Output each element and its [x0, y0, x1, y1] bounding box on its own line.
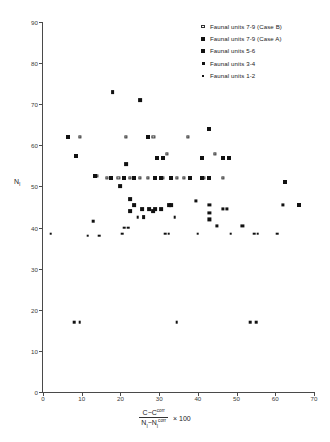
legend-item-4[interactable]: Faunal units 1-2 — [196, 70, 324, 82]
data-point — [169, 203, 173, 207]
y-axis-tick — [39, 351, 43, 352]
data-point — [297, 203, 301, 207]
data-point — [207, 127, 211, 131]
data-point — [249, 321, 252, 324]
x-axis-tick-label: 60 — [272, 395, 279, 402]
y-axis-tick-label: 30 — [31, 265, 38, 272]
data-point — [125, 136, 128, 139]
data-point — [175, 177, 178, 180]
data-point — [78, 136, 81, 139]
data-point — [121, 232, 124, 235]
x-axis-tick-label: 30 — [156, 395, 163, 402]
x-axis-tick-label: 0 — [41, 395, 44, 402]
x-axis-formula-fraction: C−Ccorr NI−NIcorr — [139, 408, 168, 429]
data-point — [197, 232, 200, 235]
legend-marker-icon — [201, 25, 204, 28]
data-point — [142, 215, 146, 219]
data-point — [208, 203, 211, 206]
y-axis-tick-label: 10 — [31, 347, 38, 354]
data-point — [153, 176, 157, 180]
legend-marker-box — [196, 75, 210, 77]
y-axis-tick-label: 90 — [31, 19, 38, 26]
data-point — [173, 216, 176, 219]
legend-item-0[interactable]: Faunal units 7-9 (Case B) — [196, 20, 324, 32]
data-point — [164, 232, 167, 235]
legend-item-label: Faunal units 7-9 (Case B) — [210, 23, 282, 30]
data-point — [73, 321, 76, 324]
legend-item-label: Faunal units 3-4 — [210, 60, 255, 67]
formula-den-sup: corr — [158, 418, 166, 423]
data-point — [229, 232, 232, 235]
data-point — [152, 136, 155, 139]
data-point — [86, 234, 89, 237]
data-point — [221, 156, 225, 160]
y-axis-title: NI — [14, 178, 20, 187]
legend-marker-icon — [201, 37, 205, 41]
data-point — [255, 321, 258, 324]
data-point — [221, 207, 224, 210]
data-point — [151, 209, 155, 213]
data-point — [194, 199, 197, 202]
data-point — [216, 224, 219, 227]
data-point — [137, 216, 140, 219]
data-point — [214, 152, 217, 155]
data-point — [78, 321, 81, 324]
data-point — [208, 212, 211, 215]
y-axis-tick — [39, 22, 43, 23]
data-point — [257, 232, 260, 235]
data-point — [128, 209, 132, 213]
data-point — [66, 135, 70, 139]
data-point — [123, 226, 126, 229]
legend-marker-icon — [201, 49, 205, 53]
legend-marker-box — [196, 25, 210, 28]
data-point — [183, 177, 186, 180]
y-axis-tick — [39, 228, 43, 229]
data-point — [128, 197, 132, 201]
data-point — [93, 174, 97, 178]
data-point — [92, 220, 95, 223]
data-point — [122, 176, 126, 180]
data-point — [124, 162, 128, 166]
scatter-chart-figure: NI 0102030405060708090010203040506070 C−… — [0, 0, 330, 442]
data-point — [208, 218, 211, 221]
y-axis-tick-label: 70 — [31, 101, 38, 108]
data-point — [49, 232, 52, 235]
formula-num-sup: corr — [157, 408, 165, 413]
x-axis-title: C−Ccorr NI−NIcorr × 100 — [0, 408, 330, 429]
data-point — [188, 176, 192, 180]
data-point — [98, 234, 101, 237]
x-axis-tick-label: 20 — [117, 395, 124, 402]
legend-item-2[interactable]: Faunal units 5-6 — [196, 45, 324, 57]
data-point — [159, 176, 163, 180]
x-axis-tick-label: 40 — [194, 395, 201, 402]
data-point — [207, 176, 211, 180]
data-point — [225, 207, 228, 210]
y-axis-tick-label: 20 — [31, 306, 38, 313]
legend-item-label: Faunal units 7-9 (Case A) — [210, 35, 282, 42]
data-point — [200, 176, 204, 180]
y-axis-tick-label: 0 — [35, 389, 38, 396]
data-point — [140, 207, 144, 211]
y-axis-tick — [39, 310, 43, 311]
legend-item-3[interactable]: Faunal units 3-4 — [196, 57, 324, 69]
legend-marker-box — [196, 62, 210, 65]
data-point — [132, 203, 136, 207]
legend-marker-icon — [202, 62, 205, 65]
legend-marker-box — [196, 49, 210, 53]
data-point — [138, 177, 141, 180]
data-point — [227, 156, 231, 160]
formula-denominator: NI−NIcorr — [139, 418, 168, 429]
legend-item-1[interactable]: Faunal units 7-9 (Case A) — [196, 32, 324, 44]
y-axis-tick-label: 80 — [31, 60, 38, 67]
data-point — [161, 156, 165, 160]
legend-item-label: Faunal units 5-6 — [210, 47, 255, 54]
legend-item-label: Faunal units 1-2 — [210, 72, 255, 79]
data-point — [241, 224, 244, 227]
x-axis-tick-label: 10 — [78, 395, 85, 402]
data-point — [146, 135, 150, 139]
y-axis-tick — [39, 63, 43, 64]
data-point — [155, 156, 159, 160]
data-point — [165, 152, 168, 155]
y-axis-tick — [39, 269, 43, 270]
y-axis-tick-label: 40 — [31, 224, 38, 231]
